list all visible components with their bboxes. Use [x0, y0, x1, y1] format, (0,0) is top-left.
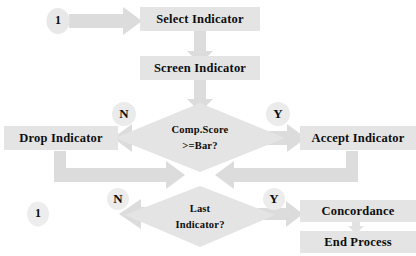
loop-connector-shape[interactable] — [27, 202, 49, 227]
accept-indicator-shape[interactable] — [300, 126, 416, 150]
last-yes-label-circle — [263, 188, 285, 210]
comp-no-label-circle — [112, 102, 136, 126]
drop-indicator-shape[interactable] — [4, 126, 118, 150]
last-no-label-circle — [107, 188, 129, 210]
arrow-start-to-select — [69, 7, 142, 35]
screen-indicator-shape[interactable] — [140, 56, 260, 80]
comp-score-decision-shape[interactable] — [115, 103, 285, 172]
end-process-shape[interactable] — [300, 231, 416, 253]
select-indicator-shape[interactable] — [140, 7, 260, 31]
node-shape-layer — [4, 7, 416, 253]
flowchart-shapes — [0, 0, 416, 256]
concordance-shape[interactable] — [300, 200, 416, 222]
flowchart-canvas: 1 Select Indicator Screen Indicator Comp… — [0, 0, 416, 256]
last-indicator-decision-shape[interactable] — [125, 186, 275, 247]
start-connector-shape[interactable] — [47, 8, 70, 34]
comp-yes-label-circle — [266, 102, 290, 126]
